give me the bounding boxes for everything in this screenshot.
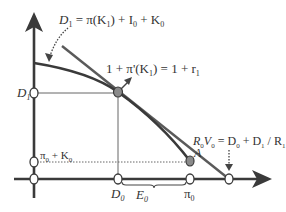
point-a-label: A [193,146,202,160]
rv-equation-label: R0V0 = D0 + D1 / R1 [192,134,286,150]
point-y-d1 [30,88,38,98]
y-axis-d1-label: D1 [16,85,30,102]
production-curve [34,63,190,161]
d1-pointer-arrowhead-icon [45,53,53,62]
point-y-pi0k0 [30,157,38,167]
x-axis-pi0-label: π0 [184,186,195,203]
point-x-r0v0 [225,174,233,184]
x-axis-e0-label: E0 [135,187,148,204]
rv-pointer-arrowhead-icon [225,164,233,171]
tangent-pointer-arrowhead-icon [124,77,132,85]
investment-diagram: D1 = π(K1) + I0 + K0 1 + π'(K1) = 1 + r1… [0,0,286,212]
point-x-d0 [114,174,122,184]
point-tangent [114,87,123,97]
e0-brace [122,182,186,188]
y-axis [25,12,43,198]
d1-equation-label: D1 = π(K1) + I0 + K0 [58,12,164,29]
point-origin [30,174,38,184]
d1-pointer-dotted-arrow [50,28,68,56]
point-a [186,156,194,166]
x-axis-d0-label: D0 [110,186,124,203]
tangent-equation-label: 1 + π'(K1) = 1 + r1 [106,61,200,78]
point-x-pi0 [186,174,194,184]
